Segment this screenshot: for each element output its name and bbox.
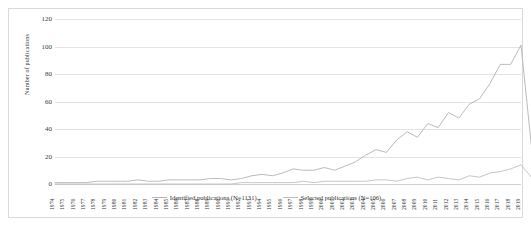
y-tick-label-100: 100 <box>42 43 53 51</box>
y-tick-label-80: 80 <box>45 70 52 78</box>
plot-area: 020406080100120 <box>55 19 521 184</box>
legend-label-selected: Selected publications (N=106) <box>301 194 382 201</box>
y-tick-label-20: 20 <box>45 153 52 161</box>
legend-label-identified: Identified publications (N=1131) <box>170 194 257 201</box>
y-tick-label-60: 60 <box>45 98 52 106</box>
series-line-0 <box>55 45 531 183</box>
legend-swatch-selected <box>283 197 298 198</box>
y-axis-title: Number of publications <box>23 10 30 120</box>
chart-frame: Number of publications 020406080100120 1… <box>8 8 523 218</box>
series-lines <box>55 19 521 184</box>
y-tick-label-40: 40 <box>45 125 52 133</box>
chart-legend: Identified publications (N=1131) Selecte… <box>9 194 524 201</box>
plot-area-wrapper: 020406080100120 <box>55 19 521 184</box>
legend-item-identified: Identified publications (N=1131) <box>152 194 257 201</box>
legend-swatch-identified <box>152 197 167 198</box>
legend-item-selected: Selected publications (N=106) <box>283 194 382 201</box>
y-tick-label-120: 120 <box>42 15 53 23</box>
chart-figure: Number of publications 020406080100120 1… <box>0 0 531 226</box>
